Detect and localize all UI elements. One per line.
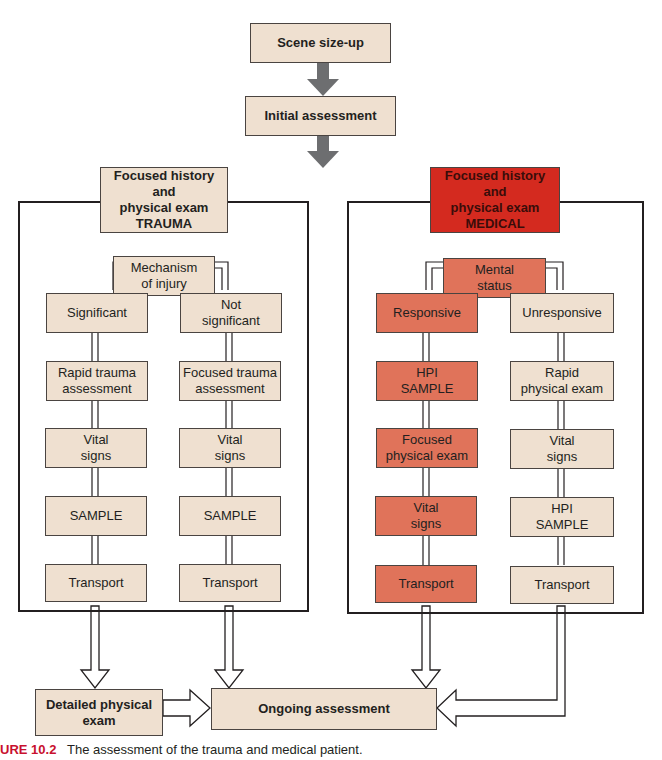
trauma-left-vital-signs-box: Vital signs	[45, 428, 147, 468]
trauma-left-transport-box: Transport	[45, 564, 147, 602]
trauma-right-vital-signs-box: Vital signs	[179, 428, 281, 468]
medical-right-transport-box: Transport	[510, 566, 614, 604]
medical-left-vital-signs-box: Vital signs	[375, 496, 477, 536]
trauma-right-sample-box: SAMPLE	[179, 496, 281, 536]
medical-rapid-exam-box: Rapid physical exam	[510, 361, 614, 401]
medical-right-vital-signs-box: Vital signs	[510, 429, 614, 469]
mental-status-box: Mental status	[443, 258, 546, 298]
medical-header-box: Focused history and physical exam MEDICA…	[430, 167, 560, 233]
medical-left-transport-box: Transport	[375, 565, 477, 603]
trauma-focused-assessment-box: Focused trauma assessment	[179, 361, 281, 401]
figure-caption: URE 10.2 The assessment of the trauma an…	[0, 742, 363, 757]
initial-assessment-box: Initial assessment	[245, 96, 396, 136]
figure-label: URE 10.2	[0, 742, 56, 757]
trauma-significant-box: Significant	[46, 293, 148, 333]
trauma-not-significant-box: Not significant	[180, 293, 282, 333]
scene-sizeup-box: Scene size-up	[250, 23, 391, 63]
trauma-header-box: Focused history and physical exam TRAUMA	[100, 167, 228, 233]
ongoing-assessment-box: Ongoing assessment	[211, 688, 437, 730]
medical-responsive-box: Responsive	[376, 293, 478, 333]
detailed-physical-exam-box: Detailed physical exam	[35, 689, 163, 736]
medical-right-hpi-sample-box: HPI SAMPLE	[510, 497, 614, 537]
mechanism-of-injury-box: Mechanism of injury	[113, 256, 215, 296]
medical-unresponsive-box: Unresponsive	[510, 293, 614, 333]
figure-caption-text: The assessment of the trauma and medical…	[67, 742, 363, 757]
trauma-left-sample-box: SAMPLE	[45, 496, 147, 536]
trauma-right-transport-box: Transport	[179, 564, 281, 602]
trauma-rapid-assessment-box: Rapid trauma assessment	[46, 361, 148, 401]
medical-hpi-sample-box: HPI SAMPLE	[376, 361, 478, 401]
medical-focused-exam-box: Focused physical exam	[376, 428, 478, 468]
